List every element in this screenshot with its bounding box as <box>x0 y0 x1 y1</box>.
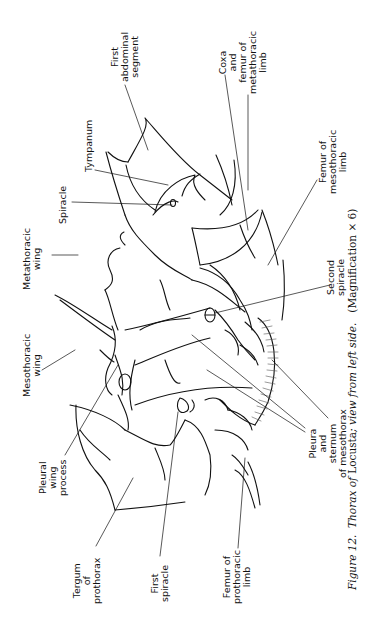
label-tergum-prothorax: Tergum of prothorax <box>72 558 102 604</box>
caption-magnification: (Magnification × 6) <box>346 209 358 313</box>
label-pleura-sternum-mesothorax: Pleura and sternum of mesothorax <box>308 409 348 478</box>
thorax-line-drawing <box>0 0 374 626</box>
label-mesothoracic-wing: Mesothoracic wing <box>22 334 42 397</box>
label-spiracle: Spiracle <box>58 186 68 224</box>
figure-caption: Figure 12. Thorax of Locusta; view from … <box>346 209 358 590</box>
caption-title-part-2: ; view from left side. <box>346 323 358 432</box>
label-first-abdominal-segment: First abdominal segment <box>110 32 140 82</box>
caption-genus: Locusta <box>346 432 358 474</box>
label-pleural-wing-process: Pleural wing process <box>38 459 68 496</box>
label-coxa-femur-metathoracic-limb: Coxa and femur of metathoracic limb <box>218 31 268 94</box>
label-tympanum: Tympanum <box>84 120 94 172</box>
label-metathoracic-wing: Metathoracic wing <box>22 228 42 290</box>
label-second-spiracle: Second spiracle <box>326 259 346 296</box>
caption-title-part-1: Thorax of <box>346 477 358 528</box>
label-femur-prothoracic-limb: Femur of prothoracic limb <box>222 550 252 604</box>
figure-thorax-locusta: First abdominal segment Coxa and femur o… <box>0 0 374 626</box>
label-first-spiracle: First spiracle <box>150 565 170 602</box>
caption-figure-number: Figure 12. <box>346 535 358 590</box>
label-femur-mesothoracic-limb: Femur of mesothoracic limb <box>318 130 348 194</box>
